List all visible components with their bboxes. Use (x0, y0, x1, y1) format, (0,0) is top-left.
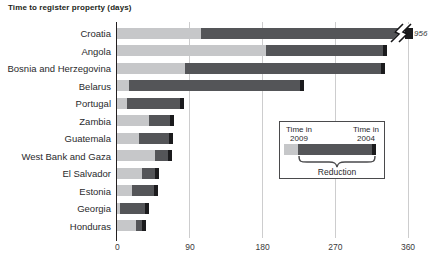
bar-2004-segment (139, 133, 173, 144)
bar-2004-segment (129, 80, 303, 91)
legend-label-2004: Time in 2004 (346, 125, 386, 143)
x-tick-label-90: 90 (175, 242, 205, 252)
x-tick-label-180: 180 (248, 242, 278, 252)
bar-2009-segment (117, 28, 201, 39)
legend-label-2004-line1: Time in (353, 125, 379, 134)
country-label: Estonia (0, 186, 111, 197)
country-label: Croatia (0, 28, 111, 39)
bar-2009-segment (117, 45, 266, 56)
bar-2004-segment (266, 45, 387, 56)
legend-label-2009-line2: 2009 (290, 134, 308, 143)
legend-box: Time in 2009 Time in 2004 Reduction (279, 121, 385, 179)
bar-end-cap (168, 150, 172, 161)
x-tick-label-0: 0 (102, 242, 132, 252)
bar-2009-segment (117, 168, 142, 179)
country-label: Bosnia and Herzegovina (0, 63, 111, 74)
bar-end-cap (142, 220, 146, 231)
bar-2004-segment (127, 98, 184, 109)
bar-2009-segment (117, 133, 139, 144)
bar-end-cap (381, 63, 385, 74)
bar-2009-segment (117, 63, 185, 74)
bar-2004-segment (201, 28, 402, 39)
bar-2009-segment (117, 150, 155, 161)
country-label: Honduras (0, 221, 111, 232)
country-label: Georgia (0, 203, 111, 214)
bar-end-cap (300, 80, 304, 91)
bar-end-cap (145, 203, 149, 214)
bar-2009-segment (117, 220, 136, 231)
legend-label-2004-line2: 2004 (357, 134, 375, 143)
bar-2009-segment (117, 98, 127, 109)
legend-label-2009: Time in 2009 (280, 125, 318, 143)
x-tick-label-360: 360 (393, 242, 423, 252)
country-label: West Bank and Gaza (0, 151, 111, 162)
bar-2009-segment (117, 185, 132, 196)
bar-2004-segment (185, 63, 384, 74)
legend-reduction-label: Reduction (297, 167, 377, 177)
bar-end-cap (170, 115, 174, 126)
legend-sample-bar-2009 (284, 144, 298, 155)
bar-end-cap (383, 45, 387, 56)
chart-title: Time to register property (days) (8, 3, 132, 12)
bar-end-cap (155, 168, 159, 179)
bar-2009-segment (117, 80, 129, 91)
country-label: El Salvador (0, 168, 111, 179)
country-label: Belarus (0, 81, 111, 92)
gridline-360 (408, 22, 409, 238)
bar-end-cap (169, 133, 173, 144)
registering-property-chart: Time to register property (days) Croatia… (0, 0, 431, 256)
bar-end-cap (154, 185, 158, 196)
country-label: Angola (0, 46, 111, 57)
bar-end-cap (180, 98, 184, 109)
x-tick-label-270: 270 (320, 242, 350, 252)
country-label: Portugal (0, 98, 111, 109)
legend-label-2009-line1: Time in (286, 125, 312, 134)
axis-break-icon (387, 24, 413, 43)
break-value-label: 956 (414, 29, 427, 38)
legend-sample-bar-2004 (298, 144, 376, 155)
bar-2009-segment (117, 115, 148, 126)
country-label: Zambia (0, 116, 111, 127)
legend-sample-bar-cap (372, 144, 376, 155)
country-label: Guatemala (0, 133, 111, 144)
